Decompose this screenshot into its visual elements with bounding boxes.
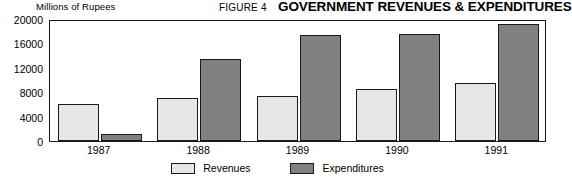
bar-expenditures-1987 <box>101 134 142 141</box>
chart-title: GOVERNMENT REVENUES & EXPENDITURES <box>278 0 572 14</box>
bar-expenditures-1988 <box>200 59 241 141</box>
legend-label-expenditures: Expenditures <box>322 162 383 174</box>
bar-expenditures-1991 <box>498 24 539 141</box>
legend-swatch-expenditures <box>290 163 314 174</box>
legend-entry-expenditures[interactable]: Expenditures <box>290 162 383 174</box>
x-tick-label-1990: 1990 <box>385 144 408 156</box>
y-tick-label: 12000 <box>14 63 43 74</box>
y-tick-label: 20000 <box>14 15 43 26</box>
plot-area <box>49 20 546 142</box>
bar-revenues-1991 <box>455 83 496 141</box>
x-tick-label-1991: 1991 <box>485 144 508 156</box>
x-tick-label-1987: 1987 <box>87 144 110 156</box>
legend-swatch-revenues <box>171 163 195 174</box>
x-tick-label-1989: 1989 <box>286 144 309 156</box>
y-tick-label: 4000 <box>20 112 43 123</box>
legend-label-revenues: Revenues <box>203 162 250 174</box>
bar-revenues-1988 <box>157 98 198 141</box>
bar-expenditures-1989 <box>300 35 341 141</box>
figure-number-label: FIGURE 4 <box>219 2 267 13</box>
chart-legend: RevenuesExpenditures <box>0 159 555 177</box>
bar-expenditures-1990 <box>399 34 440 141</box>
bar-revenues-1987 <box>58 104 99 141</box>
bar-revenues-1990 <box>356 89 397 141</box>
y-axis: 040008000120001600020000 <box>0 14 46 148</box>
y-tick-label: 8000 <box>20 88 43 99</box>
legend-entry-revenues[interactable]: Revenues <box>171 162 250 174</box>
x-axis: 19871988198919901991 <box>49 143 546 158</box>
bars-layer <box>50 21 545 141</box>
x-tick-label-1988: 1988 <box>186 144 209 156</box>
y-tick-label: 16000 <box>14 39 43 50</box>
bar-revenues-1989 <box>257 96 298 141</box>
y-axis-unit-label: Millions of Rupees <box>36 1 115 12</box>
y-tick-label: 0 <box>37 137 43 148</box>
